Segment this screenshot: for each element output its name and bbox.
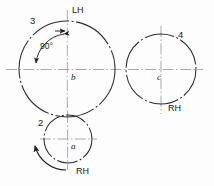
label-center-b: b	[71, 73, 76, 82]
label-hand-lh: LH	[72, 6, 84, 15]
label-hand-rh-right: RH	[168, 104, 181, 113]
diagram-vector-layer	[0, 0, 214, 186]
rotation-arrow-gear2-group	[35, 146, 66, 170]
label-hand-rh-bottom: RH	[76, 167, 89, 176]
rotation-arrow-gear2-path	[35, 146, 66, 170]
label-gear-2: 2	[38, 118, 43, 128]
diagram-canvas: 3 LH 90° b 4 c RH 2 a RH	[0, 0, 214, 186]
label-center-c: c	[157, 73, 161, 82]
label-gear-3: 3	[30, 16, 35, 26]
label-angle-90: 90°	[40, 42, 53, 51]
label-center-a: a	[71, 142, 76, 151]
label-gear-4: 4	[178, 30, 183, 40]
